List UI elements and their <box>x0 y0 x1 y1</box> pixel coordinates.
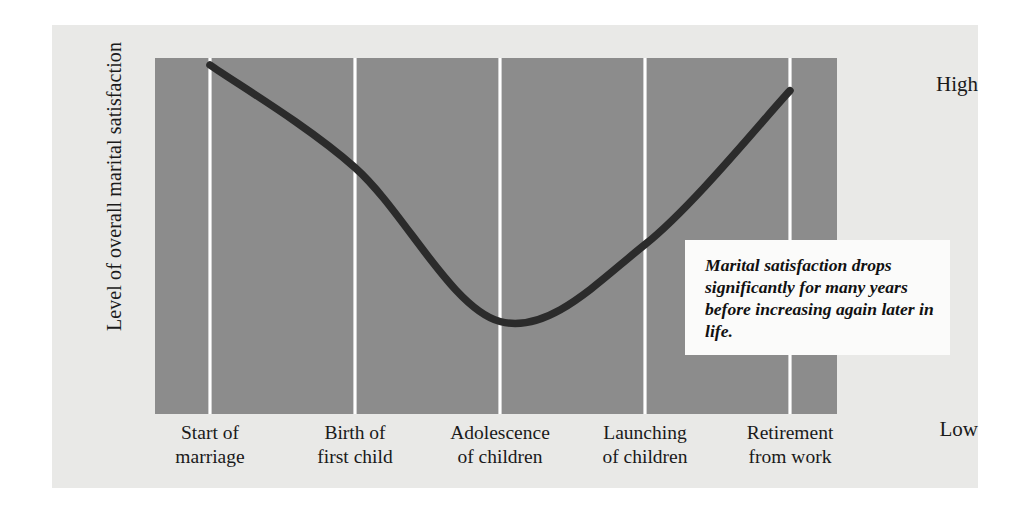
x-tick-label-3-line-2: of children <box>425 445 575 469</box>
x-tick-label-3-line-1: Adolescence <box>425 421 575 445</box>
x-tick-label-2-line-1: Birth of <box>280 421 430 445</box>
y-tick-label-high: High <box>886 72 978 97</box>
y-axis-title: Level of overall marital satisfaction <box>103 0 126 377</box>
x-tick-label-1-line-2: marriage <box>135 445 285 469</box>
line-chart-svg <box>155 58 837 414</box>
gridlines-group <box>210 58 790 414</box>
y-tick-label-low: Low <box>886 417 978 442</box>
x-tick-label-5-line-2: from work <box>715 445 865 469</box>
x-tick-label-1-line-1: Start of <box>135 421 285 445</box>
x-tick-label-1: Start ofmarriage <box>135 421 285 469</box>
x-tick-label-3: Adolescenceof children <box>425 421 575 469</box>
x-tick-label-5: Retirementfrom work <box>715 421 865 469</box>
x-tick-label-4-line-1: Launching <box>570 421 720 445</box>
x-tick-label-2: Birth offirst child <box>280 421 430 469</box>
plot-area <box>155 58 837 414</box>
annotation-callout: Marital satisfaction drops significantly… <box>685 240 950 355</box>
x-tick-label-2-line-2: first child <box>280 445 430 469</box>
x-tick-label-4-line-2: of children <box>570 445 720 469</box>
x-tick-label-4: Launchingof children <box>570 421 720 469</box>
x-axis-labels: Start ofmarriageBirth offirst childAdole… <box>155 421 837 485</box>
x-tick-label-5-line-1: Retirement <box>715 421 865 445</box>
figure-panel: Level of overall marital satisfaction Hi… <box>52 25 978 488</box>
